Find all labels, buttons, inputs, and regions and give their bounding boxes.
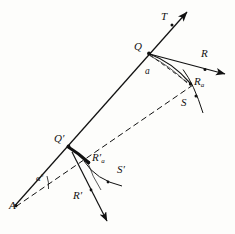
- label-point-a: A: [9, 200, 16, 211]
- arc-s-prime-dot: [107, 181, 110, 184]
- label-point-q-prime: Q′: [54, 133, 64, 144]
- vector-diagram-figure: T Q R Ra S Q′ R′a S′ A R′ a α°: [0, 0, 235, 234]
- angle-arc-a-inner: [150, 56, 188, 84]
- label-vector-r-a-prime-subscript: a: [101, 157, 105, 165]
- arc-s-dot: [195, 95, 198, 98]
- label-vector-r: R: [201, 48, 208, 59]
- label-curve-s: S: [181, 97, 187, 108]
- label-vector-r-prime: R′: [73, 190, 82, 201]
- label-vector-r-a-prime-base: R′: [92, 151, 101, 163]
- label-vector-t: T: [161, 11, 167, 22]
- vector-q-to-ra: [150, 54, 191, 84]
- label-vector-r-a-prime: R′a: [92, 152, 105, 165]
- label-point-q: Q: [134, 41, 142, 52]
- label-vector-r-a: Ra: [194, 76, 204, 89]
- label-vector-r-a-base: R: [194, 75, 201, 87]
- vector-r-midpoint-dot: [204, 68, 207, 71]
- dashed-baseline-a-to-ra: [16, 85, 193, 207]
- point-q-marker: [147, 52, 151, 56]
- point-raprime-marker: [87, 161, 91, 165]
- point-qprime-marker: [67, 145, 71, 149]
- point-ra-marker: [189, 82, 192, 85]
- label-curve-s-prime: S′: [117, 164, 125, 175]
- label-angle-alpha-degree: °: [41, 173, 44, 181]
- vector-t-midpoint-dot: [171, 24, 174, 27]
- label-angle-alpha: α°: [36, 174, 44, 183]
- label-vector-r-a-subscript: a: [201, 81, 205, 89]
- vector-q-to-r: [150, 54, 226, 74]
- angle-arc-alpha: [47, 176, 49, 189]
- vector-qprime-to-raprime: [69, 148, 89, 163]
- diagram-canvas: [0, 0, 235, 234]
- vector-rprime-midpoint-dot: [90, 189, 93, 192]
- label-angle-a: a: [145, 67, 150, 77]
